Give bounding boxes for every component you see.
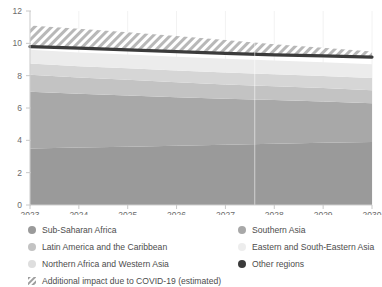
legend-item-label: Southern Asia xyxy=(252,225,306,235)
legend-item-label: Sub-Saharan Africa xyxy=(42,225,117,235)
y-axis-tick-label: 10 xyxy=(13,38,23,48)
legend-dot-icon xyxy=(28,226,36,234)
legend-dot-icon xyxy=(28,260,36,268)
y-axis-tick-label: 8 xyxy=(17,71,22,81)
y-axis-tick-label: 2 xyxy=(17,168,22,178)
legend-dot-icon xyxy=(238,226,246,234)
chart-root: 024681012 202320242025202620272028202920… xyxy=(0,0,382,287)
legend-item-northern-africa-and-western-asia[interactable]: Northern Africa and Western Asia xyxy=(28,256,221,272)
y-axis-tick-label: 6 xyxy=(17,103,22,113)
legend-item-eastern-and-south-eastern-asia[interactable]: Eastern and South-Eastern Asia xyxy=(238,239,374,255)
legend-item-label: Other regions xyxy=(252,259,304,269)
hatch-swatch-icon xyxy=(28,277,36,285)
y-axis-ticks: 024681012 xyxy=(13,6,31,210)
x-axis-tick-label: 2024 xyxy=(69,210,88,215)
x-axis-tick-label: 2025 xyxy=(118,210,137,215)
legend-item-label: Eastern and South-Eastern Asia xyxy=(252,242,374,252)
legend-item-sub-saharan-africa[interactable]: Sub-Saharan Africa xyxy=(28,222,221,238)
x-axis-ticks: 20232024202520262027202820292030 xyxy=(21,205,382,215)
y-axis-tick-label: 4 xyxy=(17,135,22,145)
stacked-area-chart: 024681012 202320242025202620272028202920… xyxy=(0,0,382,215)
legend-item-label: Northern Africa and Western Asia xyxy=(42,259,169,269)
x-axis-tick-label: 2030 xyxy=(363,210,382,215)
area-band-sub-saharan-africa xyxy=(30,142,372,205)
legend-column-left: Sub-Saharan Africa Latin America and the… xyxy=(28,222,221,287)
legend-item-label: Additional impact due to COVID-19 (estim… xyxy=(42,276,221,286)
area-bands xyxy=(30,50,372,205)
chart-legend: Sub-Saharan Africa Latin America and the… xyxy=(0,222,382,287)
legend-dot-icon xyxy=(238,260,246,268)
x-axis-tick-label: 2026 xyxy=(167,210,186,215)
x-axis-tick-label: 2023 xyxy=(21,210,40,215)
legend-item-southern-asia[interactable]: Southern Asia xyxy=(238,222,374,238)
plot-area: 024681012 202320242025202620272028202920… xyxy=(0,0,382,215)
legend-item-latin-america-and-the-caribbean[interactable]: Latin America and the Caribbean xyxy=(28,239,221,255)
legend-dot-icon xyxy=(238,243,246,251)
x-axis-tick-label: 2029 xyxy=(314,210,333,215)
legend-column-right: Southern Asia Eastern and South-Eastern … xyxy=(238,222,374,273)
x-axis-tick-label: 2027 xyxy=(216,210,235,215)
x-axis-tick-label: 2028 xyxy=(265,210,284,215)
legend-item-label: Latin America and the Caribbean xyxy=(42,242,167,252)
y-axis-tick-label: 0 xyxy=(17,200,22,210)
legend-dot-icon xyxy=(28,243,36,251)
y-axis-tick-label: 12 xyxy=(13,6,23,16)
legend-item-additional-impact-covid-19[interactable]: Additional impact due to COVID-19 (estim… xyxy=(28,273,221,287)
legend-item-other-regions[interactable]: Other regions xyxy=(238,256,374,272)
